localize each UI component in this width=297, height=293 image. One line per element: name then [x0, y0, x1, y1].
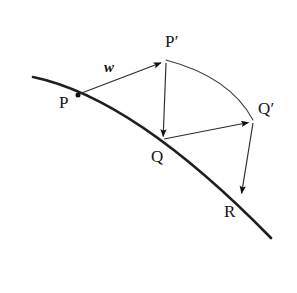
arc-pprime-qprime	[166, 60, 253, 120]
point-label-q-prime: Q′	[258, 100, 274, 117]
point-label-q: Q	[151, 148, 163, 165]
vector-label-w: w	[104, 60, 114, 75]
vector-q-to-qprime-arrow	[164, 123, 249, 140]
point-label-p-prime: P′	[165, 33, 179, 50]
point-label-r: R	[224, 203, 236, 220]
vector-diagram-svg	[0, 0, 297, 293]
point-dot-p	[76, 93, 81, 98]
point-label-p: P	[59, 94, 69, 111]
vector-qprime-to-r-arrow	[242, 123, 253, 193]
figure-canvas: P P′ Q Q′ R w	[0, 0, 297, 293]
vector-w-arrow	[79, 63, 161, 94]
vector-pprime-to-q-arrow	[163, 63, 166, 137]
